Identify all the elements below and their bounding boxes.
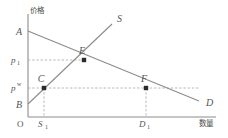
demand-intercept-label-a: A — [15, 26, 23, 37]
quantity-tick-s1-subscript: 1 — [45, 124, 48, 130]
quantity-tick-s1-base: S — [38, 119, 43, 129]
demand-curve-label: D — [205, 97, 214, 108]
point-label-c: C — [38, 73, 45, 84]
supply-demand-figure: 价格 数量 O S D A B E C F p 1 p w S 1 — [0, 0, 228, 138]
origin-label: O — [17, 119, 24, 129]
y-axis-label: 价格 — [30, 5, 45, 15]
figure-canvas: 价格 数量 O S D A B E C F p 1 p w S 1 — [0, 0, 228, 138]
point-marker-e — [82, 58, 86, 62]
supply-curve-label: S — [117, 13, 122, 24]
price-tick-p1-base: p — [10, 55, 16, 65]
point-label-f: F — [140, 73, 148, 84]
point-marker-c — [42, 86, 46, 90]
supply-intercept-label-b: B — [16, 99, 22, 110]
point-marker-f — [144, 86, 148, 90]
price-tick-pw-superscript: w — [17, 81, 22, 87]
quantity-tick-d1-subscript: 1 — [147, 124, 150, 130]
price-tick-p1-subscript: 1 — [17, 60, 20, 66]
quantity-tick-d1-base: D — [138, 119, 146, 129]
price-tick-pw-base: p — [10, 83, 16, 93]
x-axis-label: 数量 — [199, 118, 214, 128]
point-label-e: E — [78, 45, 85, 56]
